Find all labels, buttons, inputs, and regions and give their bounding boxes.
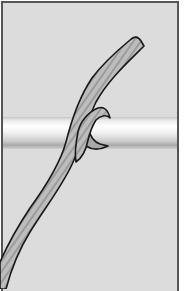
rope-main-strand — [0, 37, 144, 289]
